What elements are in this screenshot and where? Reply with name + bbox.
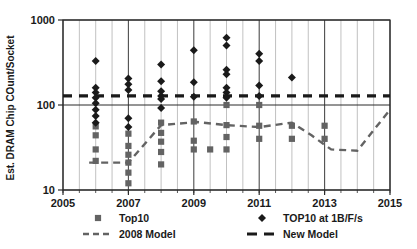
legend-square-marker — [95, 215, 101, 221]
x-tick-label: 2005 — [51, 197, 75, 209]
x-tick-label: 2011 — [247, 197, 271, 209]
x-axis-tick-labels: 200520072009201120132015 — [51, 197, 402, 209]
y-tick-label: 100 — [37, 99, 55, 111]
legend-item-label: 2008 Model — [119, 228, 176, 240]
legend-item[interactable]: Top10 — [95, 212, 149, 224]
legend-item[interactable]: TOP10 at 1B/F/s — [258, 212, 363, 224]
y-axis-tick-marks — [58, 20, 63, 190]
legend-item-label: New Model — [283, 228, 338, 240]
y-tick-label: 1000 — [31, 14, 55, 26]
y-axis-tick-labels: 100010010 — [31, 14, 55, 196]
y-axis-title-text: Est. DRAM Chip COunt/Socket — [5, 35, 16, 181]
x-tick-label: 2015 — [378, 197, 402, 209]
legend-item[interactable]: 2008 Model — [83, 228, 176, 240]
chart-legend: Top10TOP10 at 1B/F/s2008 ModelNew Model — [83, 212, 363, 240]
y-axis-title: Est. DRAM Chip COunt/Socket — [5, 35, 16, 181]
legend-item[interactable]: New Model — [247, 228, 338, 240]
legend-diamond-marker — [258, 214, 266, 222]
legend-item-label: Top10 — [119, 212, 149, 224]
x-tick-label: 2009 — [182, 197, 206, 209]
y-tick-label: 10 — [43, 184, 55, 196]
x-tick-label: 2013 — [312, 197, 336, 209]
chart-container: 100010010 200520072009201120132015 Est. … — [0, 0, 417, 249]
x-tick-label: 2007 — [116, 197, 140, 209]
x-axis-minor-ticks — [63, 190, 390, 193]
legend-item-label: TOP10 at 1B/F/s — [283, 212, 363, 224]
dram-chip-count-chart: 100010010 200520072009201120132015 Est. … — [0, 0, 417, 249]
